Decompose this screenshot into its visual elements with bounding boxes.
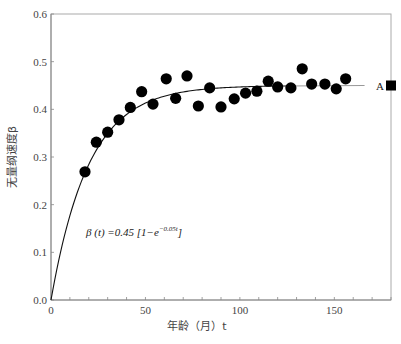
data-point bbox=[306, 78, 317, 89]
formula-exponent: −0.05t bbox=[159, 225, 179, 233]
data-point bbox=[340, 73, 351, 84]
data-point bbox=[181, 70, 192, 81]
data-point bbox=[102, 127, 113, 138]
chart: 050100150 0.00.10.20.30.40.50.6 A β (t) … bbox=[0, 0, 401, 344]
x-tick-label: 0 bbox=[48, 304, 54, 316]
data-point bbox=[240, 88, 251, 99]
x-axis-label: 年龄（月）t bbox=[167, 319, 227, 333]
data-point bbox=[125, 102, 136, 113]
data-point bbox=[251, 86, 262, 97]
fit-curve bbox=[51, 86, 289, 300]
x-tick-label: 50 bbox=[140, 304, 152, 316]
y-tick-label: 0.6 bbox=[33, 8, 47, 20]
y-tick-label: 0.4 bbox=[33, 103, 47, 115]
x-tick-label: 100 bbox=[232, 304, 249, 316]
formula-annotation: β (t) =0.45 [1−e−0.05t] bbox=[85, 225, 182, 239]
data-point bbox=[136, 86, 147, 97]
data-point bbox=[272, 81, 283, 92]
data-point bbox=[215, 101, 226, 112]
plot-frame bbox=[51, 14, 391, 300]
y-tick-label: 0.1 bbox=[33, 246, 47, 258]
data-point bbox=[229, 93, 240, 104]
data-point bbox=[263, 76, 274, 87]
y-tick-label: 0.0 bbox=[33, 294, 47, 306]
x-tick-label: 150 bbox=[326, 304, 343, 316]
point-a-label: A bbox=[376, 80, 384, 92]
formula-tail: ] bbox=[177, 226, 182, 238]
data-point bbox=[285, 82, 296, 93]
y-tick-label: 0.5 bbox=[33, 56, 47, 68]
data-point bbox=[297, 63, 308, 74]
formula-main: β (t) =0.45 [1−e bbox=[85, 226, 159, 239]
data-point bbox=[204, 82, 215, 93]
data-point bbox=[193, 100, 204, 111]
data-point bbox=[113, 114, 124, 125]
data-point bbox=[170, 93, 181, 104]
data-point bbox=[319, 78, 330, 89]
data-point bbox=[147, 98, 158, 109]
y-axis-label: 无量纲速度β bbox=[5, 126, 19, 188]
data-point bbox=[161, 73, 172, 84]
y-tick-label: 0.3 bbox=[33, 151, 47, 163]
data-point bbox=[331, 83, 342, 94]
point-a-square-marker bbox=[386, 81, 396, 91]
data-point bbox=[91, 137, 102, 148]
y-tick-label: 0.2 bbox=[33, 199, 47, 211]
data-point bbox=[79, 166, 90, 177]
data-points bbox=[79, 63, 351, 177]
